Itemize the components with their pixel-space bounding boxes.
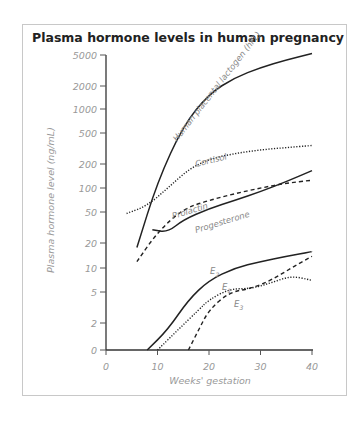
- svg-text:50: 50: [85, 207, 97, 218]
- svg-text:0: 0: [103, 361, 109, 372]
- svg-text:0: 0: [91, 345, 97, 356]
- y-axis-label: Plasma hormone level (ng/mL): [45, 127, 56, 273]
- hpl-label: Human placental lactogen (hPL): [171, 29, 263, 143]
- svg-text:2000: 2000: [73, 81, 97, 92]
- svg-text:20: 20: [85, 238, 97, 249]
- series-e3: [188, 256, 312, 350]
- svg-text:40: 40: [306, 361, 318, 372]
- cortisol-label: Cortisol: [194, 151, 228, 169]
- svg-text:10: 10: [151, 361, 163, 372]
- e2-label: E2: [210, 266, 219, 278]
- e3-label: E3: [234, 299, 243, 311]
- x-ticks: 010203040: [103, 350, 318, 372]
- progesterone-label: Progesterone: [194, 209, 251, 235]
- svg-text:10: 10: [85, 263, 97, 274]
- svg-text:2: 2: [91, 318, 97, 329]
- svg-text:30: 30: [254, 361, 266, 372]
- chart-plot: 500020001000500200100502010520 010203040…: [0, 0, 363, 423]
- svg-text:5000: 5000: [73, 50, 97, 61]
- svg-text:100: 100: [79, 183, 97, 194]
- svg-text:1000: 1000: [73, 104, 97, 115]
- svg-text:5: 5: [91, 287, 97, 298]
- y-ticks: 500020001000500200100502010520: [73, 50, 106, 356]
- svg-text:200: 200: [79, 159, 97, 170]
- series-e1: [158, 277, 313, 350]
- svg-text:20: 20: [203, 361, 215, 372]
- svg-text:500: 500: [79, 128, 97, 139]
- x-axis-label: Weeks' gestation: [169, 375, 251, 386]
- series-lines: [127, 54, 312, 350]
